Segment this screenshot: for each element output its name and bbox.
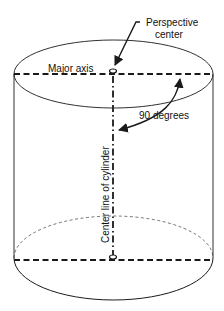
cylinder-diagram: Perspective center Major axis 90 degrees… <box>0 0 224 311</box>
perspective-center-top <box>110 69 117 73</box>
perspective-center-arrow <box>115 22 140 65</box>
perspective-center-bottom <box>110 255 117 259</box>
angle-arrow <box>119 79 180 130</box>
label-angle: 90 degrees <box>139 110 189 121</box>
label-perspective-1: Perspective <box>146 17 199 28</box>
label-perspective-2: center <box>155 29 183 40</box>
label-major-axis: Major axis <box>48 63 94 74</box>
label-center-line: Center line of cylinder <box>100 146 111 243</box>
bottom-ellipse-front <box>14 258 213 300</box>
